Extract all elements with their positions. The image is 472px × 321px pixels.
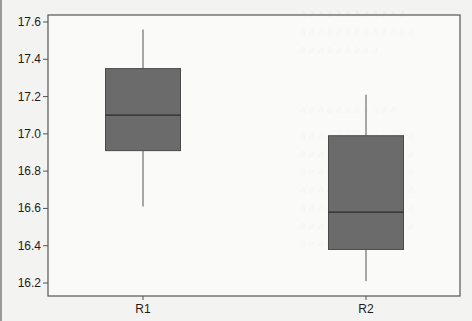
y-tick-label: 17.6 (18, 15, 42, 29)
y-tick-label: 17.4 (18, 52, 42, 66)
x-tick-label: R2 (358, 302, 374, 316)
y-tick-label: 16.4 (18, 239, 42, 253)
y-axis: 16.216.416.616.817.017.217.417.6 (18, 15, 48, 290)
y-tick-label: 16.6 (18, 201, 42, 215)
y-tick-label: 17.2 (18, 90, 42, 104)
x-axis: R1R2 (135, 296, 374, 316)
y-tick-label: 16.2 (18, 276, 42, 290)
iqr-box (106, 69, 181, 151)
box-plot: 16.216.416.616.817.017.217.417.6 R1R2 (0, 0, 472, 321)
y-tick-label: 16.8 (18, 164, 42, 178)
y-tick-label: 17.0 (18, 127, 42, 141)
iqr-box (329, 136, 404, 250)
x-tick-label: R1 (135, 302, 151, 316)
